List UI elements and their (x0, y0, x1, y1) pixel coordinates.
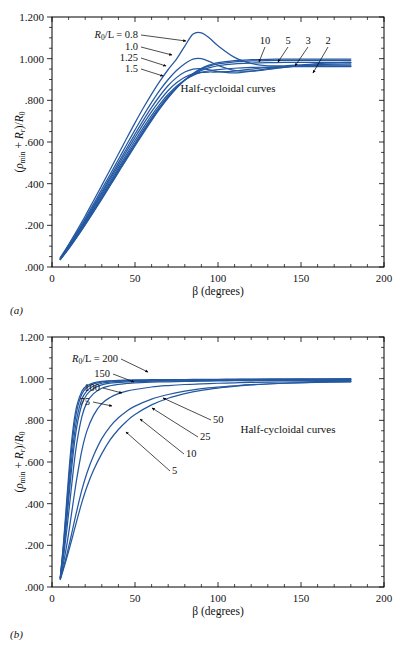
chart-panel-a: 050100150200.000.200.400.600.8001.0001.2… (0, 0, 414, 324)
annotation-half-cycloidal-a: Half-cycloidal curves (181, 82, 276, 94)
y-tick-label: .800 (25, 94, 45, 106)
curve-1.5 (60, 66, 351, 259)
series-label-b-0: R0/L = 200 (71, 353, 118, 366)
curve-25 (60, 381, 351, 578)
y-tick-label: .200 (25, 219, 45, 231)
y-axis-title-a: (ρmin + Rr)/R0 (13, 111, 27, 172)
x-tick-label: 100 (210, 272, 227, 284)
curve-100 (60, 379, 351, 577)
chart-a-ticks (47, 17, 384, 267)
series-label-b-1: 150 (94, 368, 110, 379)
series-label-a-5: 5 (285, 35, 290, 46)
curve-150 (60, 379, 351, 578)
x-tick-label: 200 (376, 592, 393, 604)
y-tick-label: .000 (25, 261, 45, 273)
series-label-b-3: 75 (80, 396, 91, 407)
y-tick-label: .200 (25, 539, 45, 551)
series-label-b-2: 100 (84, 382, 100, 393)
svg-text:(ρmin + Rr)/R0: (ρmin + Rr)/R0 (13, 111, 27, 172)
x-tick-label: 200 (376, 272, 393, 284)
series-label-a-3: 1.5 (125, 63, 138, 74)
series-label-a-7: 2 (325, 35, 330, 46)
x-tick-label: 100 (210, 592, 227, 604)
y-tick-label: .800 (25, 414, 45, 426)
x-tick-label: 0 (49, 272, 55, 284)
x-tick-label: 150 (293, 592, 310, 604)
series-label-a-1: 1.0 (125, 41, 138, 52)
y-tick-label: 1.200 (19, 331, 44, 343)
y-axis-title-b: (ρmin + Rr)/R0 (13, 431, 27, 492)
y-tick-label: 1.000 (19, 373, 44, 385)
chart-a-svg: 050100150200.000.200.400.600.8001.0001.2… (0, 0, 414, 324)
annotation-half-cycloidal-b: Half-cycloidal curves (241, 423, 336, 435)
x-axis-title-a: β (degrees) (192, 285, 244, 298)
y-tick-label: .400 (25, 178, 45, 190)
series-label-b-7: 5 (172, 465, 177, 476)
series-label-b-5: 25 (200, 431, 211, 442)
svg-text:(ρmin + Rr)/R0: (ρmin + Rr)/R0 (13, 431, 27, 492)
chart-b-tick-labels: 050100150200.000.200.400.600.8001.0001.2… (19, 331, 393, 604)
x-tick-label: 0 (49, 592, 55, 604)
x-tick-label: 150 (293, 272, 310, 284)
series-label-a-6: 3 (305, 35, 310, 46)
figure-root: 050100150200.000.200.400.600.8001.0001.2… (0, 0, 414, 648)
curve-50 (60, 380, 351, 578)
x-tick-label: 50 (130, 592, 142, 604)
curve-2 (60, 67, 351, 260)
chart-panel-b: 050100150200.000.200.400.600.8001.0001.2… (0, 320, 414, 648)
chart-a-frame (52, 17, 384, 267)
x-axis-title-b: β (degrees) (192, 605, 244, 618)
y-tick-label: 1.200 (19, 11, 44, 23)
chart-b-curves (60, 379, 351, 580)
curve-75 (60, 380, 351, 578)
chart-a-curves (60, 32, 351, 259)
curve-10 (60, 382, 351, 579)
chart-a-tick-labels: 050100150200.000.200.400.600.8001.0001.2… (19, 11, 393, 284)
plot-frame-a (52, 17, 384, 267)
curve-5 (60, 382, 351, 580)
y-tick-label: .400 (25, 498, 45, 510)
y-tick-label: .600 (25, 136, 45, 148)
series-label-a-2: 1.25 (120, 52, 138, 63)
y-tick-label: 1.000 (19, 53, 44, 65)
series-label-a-4: 10 (260, 35, 271, 46)
series-label-b-4: 50 (213, 414, 224, 425)
series-label-b-6: 10 (186, 448, 197, 459)
curve-1.25 (60, 65, 351, 259)
y-tick-label: .600 (25, 456, 45, 468)
x-tick-label: 50 (130, 272, 142, 284)
chart-b-svg: 050100150200.000.200.400.600.8001.0001.2… (0, 320, 414, 648)
y-tick-label: .000 (25, 581, 45, 593)
curve-200 (60, 379, 351, 578)
